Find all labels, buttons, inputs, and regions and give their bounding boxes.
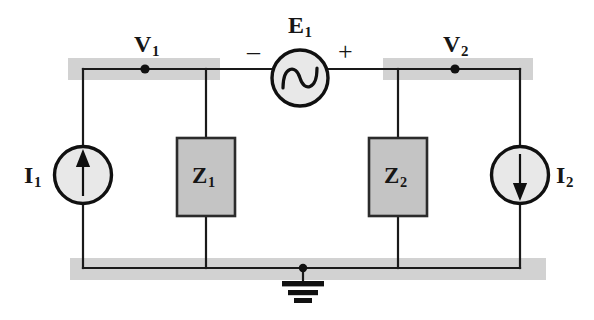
- ground-bar-1: [282, 281, 324, 286]
- label-i1: I1: [24, 163, 41, 187]
- current-source-i2[interactable]: [492, 147, 549, 204]
- label-i2: I2: [556, 163, 573, 187]
- label-v2: V2: [443, 32, 468, 56]
- ground-symbol: [282, 281, 324, 303]
- junction-dot-ground: [299, 264, 307, 272]
- circuit-schematic: [0, 0, 594, 320]
- label-z1: Z1: [192, 164, 214, 187]
- label-v1: V1: [134, 32, 159, 56]
- ac-voltage-source-e1[interactable]: [272, 50, 328, 106]
- label-e1: E1: [288, 13, 311, 37]
- junction-dot-v1: [140, 64, 149, 73]
- ground-bar-3: [294, 298, 312, 303]
- junction-dot-v2: [450, 64, 459, 73]
- circuit-diagram-canvas: V1 V2 E1 – + I1 I2 Z1 Z2: [0, 0, 594, 320]
- label-polarity-minus: –: [247, 39, 260, 65]
- label-z2: Z2: [384, 164, 406, 187]
- ground-bar-2: [288, 290, 318, 295]
- current-source-i1[interactable]: [55, 147, 112, 204]
- label-polarity-plus: +: [338, 39, 353, 65]
